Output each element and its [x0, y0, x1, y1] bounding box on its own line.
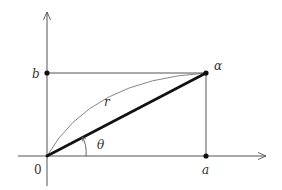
label-origin: 0 [34, 163, 42, 177]
point-b [44, 70, 49, 75]
angle-arc [82, 137, 86, 156]
label-a: a [202, 163, 209, 177]
radius-line [47, 73, 206, 156]
complex-plane-diagram: b α a 0 r θ [0, 0, 282, 190]
label-theta: θ [97, 138, 105, 152]
point-origin [46, 155, 49, 158]
label-r: r [104, 95, 111, 109]
label-alpha: α [214, 59, 222, 73]
point-a [203, 153, 208, 158]
point-alpha [203, 70, 208, 75]
label-b: b [32, 67, 40, 81]
